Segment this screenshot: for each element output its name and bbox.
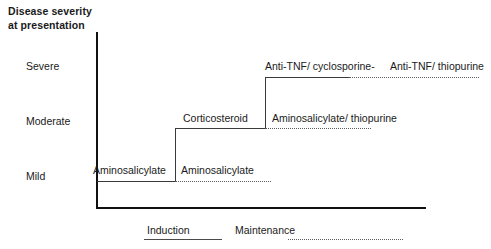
- moderate-maintenance-line: [265, 128, 371, 129]
- x-axis-line: [96, 207, 426, 209]
- severity-treatment-diagram: Disease severity at presentation Severe …: [0, 0, 491, 249]
- severe-maintenance-line: [349, 77, 479, 78]
- legend-label-induction: Induction: [147, 224, 190, 237]
- moderate-induction-label: Corticosteroid: [183, 112, 248, 125]
- step-riser-mild-to-moderate: [175, 128, 176, 181]
- severe-maintenance-label: Anti-TNF/ thiopurine: [390, 60, 484, 73]
- severity-label-moderate: Moderate: [26, 115, 70, 127]
- step-riser-moderate-to-severe: [265, 77, 266, 128]
- y-axis-title-line2: at presentation: [8, 18, 92, 32]
- y-axis-title: Disease severity at presentation: [8, 4, 92, 32]
- mild-maintenance-label: Aminosalicylate: [181, 164, 254, 177]
- legend-label-maintenance: Maintenance: [235, 224, 295, 237]
- severe-induction-label: Anti-TNF/ cyclosporine-: [265, 60, 375, 73]
- severe-induction-line: [265, 77, 349, 78]
- mild-induction-line: [97, 181, 175, 182]
- mild-maintenance-line: [175, 181, 271, 182]
- severity-label-severe: Severe: [26, 60, 59, 72]
- moderate-maintenance-label: Aminosalicylate/ thiopurine: [272, 112, 397, 125]
- y-axis-line: [96, 32, 98, 209]
- severity-label-mild: Mild: [26, 170, 45, 182]
- legend-rule-induction: [144, 239, 222, 240]
- mild-induction-label: Aminosalicylate: [93, 164, 166, 177]
- y-axis-title-line1: Disease severity: [8, 4, 92, 18]
- moderate-induction-line: [175, 128, 265, 129]
- legend-rule-maintenance: [288, 239, 403, 240]
